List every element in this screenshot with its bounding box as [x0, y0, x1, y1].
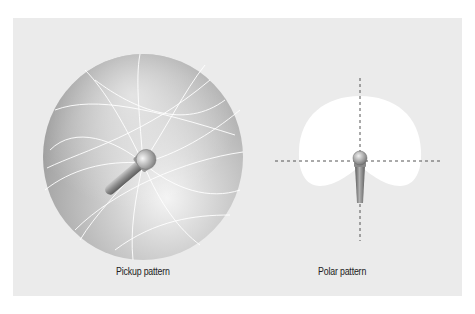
polar-pattern-cardioid-icon: [275, 56, 445, 246]
figure-panel: Pickup pattern Polar pattern: [13, 18, 462, 296]
caption-pickup-pattern: Pickup pattern: [116, 266, 170, 277]
pickup-pattern-sphere-icon: [35, 40, 250, 270]
caption-polar-pattern: Polar pattern: [318, 266, 366, 277]
